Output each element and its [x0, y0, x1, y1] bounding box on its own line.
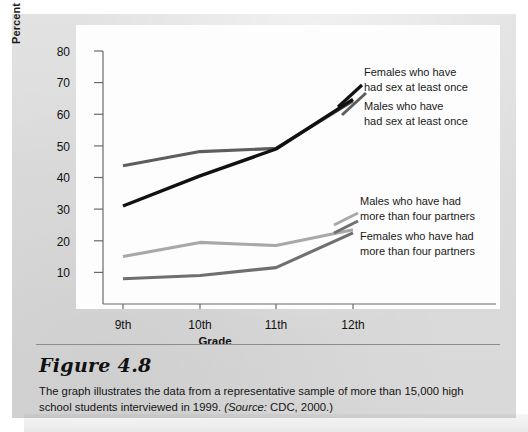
y-tick-label-70: 70 — [40, 76, 70, 90]
y-axis-title: Percent of students at each grade level — [10, 0, 22, 44]
y-axis-ticks — [94, 51, 103, 272]
caption-source-label: (Source: — [224, 401, 267, 413]
x-axis-ticks — [123, 304, 353, 309]
panel-bottom-shadow — [24, 414, 528, 432]
y-tick-label-30: 30 — [40, 203, 70, 217]
x-tick-label-9th: 9th — [99, 318, 147, 332]
legend-label-females-partners: Females who have had more than four part… — [360, 229, 475, 258]
x-tick-label-12th: 12th — [329, 318, 377, 332]
y-tick-label-80: 80 — [40, 45, 70, 59]
x-axis-title: Grade — [155, 335, 275, 347]
y-tick-label-40: 40 — [40, 171, 70, 185]
legend-label-females-sex: Females who have had sex at least once — [364, 65, 468, 94]
caption-source-value: CDC, 2000.) — [267, 401, 333, 413]
y-tick-label-50: 50 — [40, 140, 70, 154]
series-line-males-sex — [123, 99, 353, 206]
legend-label-males-partners: Males who have had more than four partne… — [360, 194, 475, 223]
figure-caption: The graph illustrates the data from a re… — [39, 383, 491, 415]
series-line-females-partners — [123, 233, 353, 279]
x-tick-label-11th: 11th — [252, 318, 300, 332]
y-tick-label-60: 60 — [40, 108, 70, 122]
y-tick-label-20: 20 — [40, 235, 70, 249]
series-line-females-sex — [123, 101, 353, 166]
caption-divider — [36, 344, 500, 345]
figure-number: Figure 4.8 — [39, 354, 152, 376]
x-tick-label-10th: 10th — [176, 318, 224, 332]
legend-label-males-sex: Males who have had sex at least once — [364, 99, 468, 128]
figure-panel: Percent of students at each grade level — [12, 14, 516, 418]
y-tick-label-10: 10 — [40, 266, 70, 280]
series-line-males-partners — [123, 230, 353, 257]
